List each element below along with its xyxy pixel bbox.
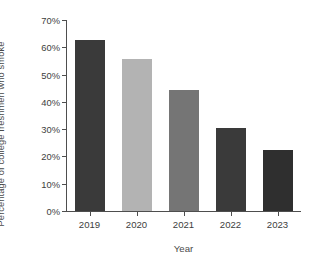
y-tick-label: 20% xyxy=(41,151,60,162)
y-tick-label: 50% xyxy=(41,69,60,80)
y-axis-title: Percentage of college freshmen who smoke xyxy=(0,0,16,268)
x-tick-label-2023: 2023 xyxy=(267,219,288,230)
x-tick-label-2019: 2019 xyxy=(79,219,100,230)
x-tick-label-2020: 2020 xyxy=(126,219,147,230)
y-tick-label: 40% xyxy=(41,96,60,107)
x-tick-mark-2019 xyxy=(90,211,91,216)
y-tick-label: 30% xyxy=(41,124,60,135)
y-tick-mark xyxy=(62,211,66,212)
bars-layer xyxy=(66,20,301,211)
x-tick-mark-2020 xyxy=(137,211,138,216)
plot-area: 0%10%20%30%40%50%60%70% 2019202020212022… xyxy=(66,20,301,211)
y-tick-label: 60% xyxy=(41,42,60,53)
y-tick-label: 70% xyxy=(41,15,60,26)
bar-2019[interactable] xyxy=(75,40,105,211)
x-tick-mark-2021 xyxy=(184,211,185,216)
bar-2023[interactable] xyxy=(263,150,293,211)
bar-2020[interactable] xyxy=(122,59,152,211)
x-tick-mark-2022 xyxy=(231,211,232,216)
bar-2022[interactable] xyxy=(216,128,246,211)
y-tick-label: 10% xyxy=(41,178,60,189)
x-axis-title: Year xyxy=(66,243,301,254)
x-tick-mark-2023 xyxy=(278,211,279,216)
bar-2021[interactable] xyxy=(169,90,199,211)
y-tick-label: 0% xyxy=(46,206,60,217)
x-tick-label-2021: 2021 xyxy=(173,219,194,230)
x-tick-label-2022: 2022 xyxy=(220,219,241,230)
bar-chart: Percentage of college freshmen who smoke… xyxy=(0,0,321,268)
